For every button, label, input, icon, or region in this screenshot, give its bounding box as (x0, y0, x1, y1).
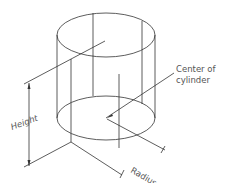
radius-dimension (71, 119, 165, 178)
height-label: Height (9, 113, 39, 132)
top-ellipse (57, 13, 155, 57)
cylinder-diagram: Height Radius Center of cylinder (0, 0, 239, 183)
radius-label: Radius (129, 165, 159, 183)
cylinder-generators (57, 13, 155, 148)
center-label-line1: Center of (176, 64, 217, 74)
center-label-line2: cylinder (176, 75, 210, 85)
center-leader (106, 73, 174, 118)
